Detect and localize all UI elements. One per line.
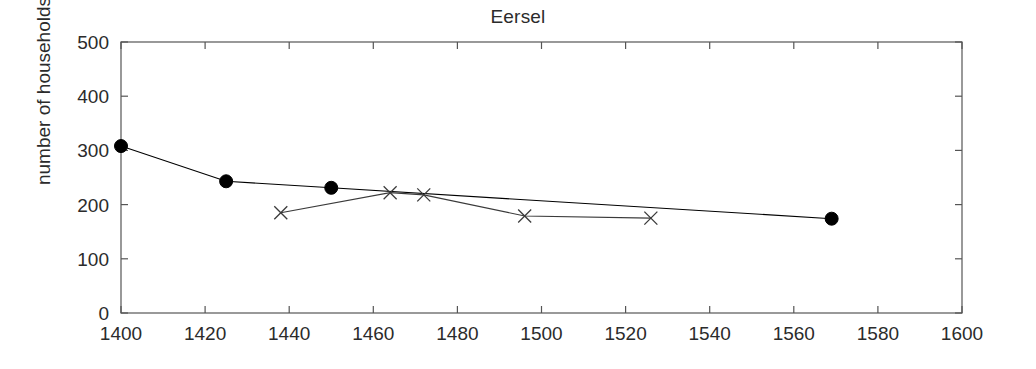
y-tick-label: 200 bbox=[77, 195, 109, 216]
axes-box bbox=[121, 42, 962, 313]
y-tick-label: 400 bbox=[77, 86, 109, 107]
x-tick-label: 1560 bbox=[773, 323, 815, 344]
data-point-filled-circle bbox=[220, 175, 233, 188]
data-point-filled-circle bbox=[325, 181, 338, 194]
x-tick-label: 1520 bbox=[604, 323, 646, 344]
plot-area: 1400142014401460148015001520154015601580… bbox=[0, 0, 1036, 369]
x-tick-label: 1480 bbox=[436, 323, 478, 344]
x-tick-label: 1460 bbox=[352, 323, 394, 344]
y-tick-label: 300 bbox=[77, 140, 109, 161]
x-tick-label: 1540 bbox=[689, 323, 731, 344]
x-tick-label: 1400 bbox=[100, 323, 142, 344]
x-tick-label: 1440 bbox=[268, 323, 310, 344]
chart-figure: Eersel number of households 140014201440… bbox=[0, 0, 1036, 369]
x-tick-label: 1600 bbox=[941, 323, 983, 344]
y-tick-label: 100 bbox=[77, 249, 109, 270]
data-point-filled-circle bbox=[115, 140, 128, 153]
y-tick-label: 0 bbox=[98, 303, 109, 324]
y-axis-ticks: 0100200300400500 bbox=[77, 32, 962, 324]
x-tick-label: 1420 bbox=[184, 323, 226, 344]
x-axis-ticks: 1400142014401460148015001520154015601580… bbox=[100, 42, 983, 344]
x-tick-label: 1580 bbox=[857, 323, 899, 344]
y-tick-label: 500 bbox=[77, 32, 109, 53]
axes-frame bbox=[121, 42, 962, 313]
x-tick-label: 1500 bbox=[520, 323, 562, 344]
data-point-filled-circle bbox=[825, 212, 838, 225]
